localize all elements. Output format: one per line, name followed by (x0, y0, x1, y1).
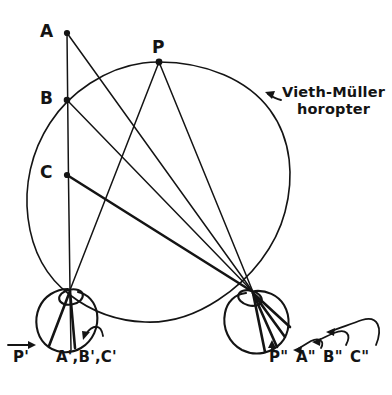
point-label-P: P (152, 38, 165, 58)
ray-A-to-right-eye (67, 33, 253, 292)
object-point-dots (64, 30, 163, 178)
pointer-P-prime-head (28, 341, 36, 349)
vertical-median-line-group (67, 33, 70, 290)
retinal-label-P-double-prime: P" (269, 349, 288, 366)
horopter-annotation-line2: horopter (282, 101, 385, 118)
ray-P-to-left-eye (70, 62, 159, 290)
ray-P-to-right-eye (159, 62, 253, 292)
dot-C (64, 172, 70, 178)
retinal-label-C-double-prime: C" (350, 349, 369, 366)
pointer-ABC-prime-head (82, 331, 90, 340)
right-eye-group (224, 288, 290, 354)
point-label-A: A (40, 22, 53, 42)
retinal-label-B-double-prime: B" (323, 349, 343, 366)
rays-from-P (70, 62, 253, 292)
horopter-annotation: Vieth-Müller horopter (282, 84, 385, 117)
retinal-label-A-double-prime: A" (296, 349, 316, 366)
retinal-label-ABC-prime: A',B',C' (56, 349, 117, 366)
retinal-label-P-prime: P' (13, 349, 29, 366)
dot-B (64, 97, 71, 104)
ray-B-to-right-eye (67, 100, 253, 292)
diagram-canvas (0, 0, 392, 395)
rays-to-right-eye (67, 33, 253, 292)
ray-C-to-right-eye (67, 175, 253, 292)
left-eye-optic-axis (70, 290, 71, 350)
dot-A (64, 30, 70, 36)
horopter-annotation-line1: Vieth-Müller (282, 84, 385, 100)
point-label-C: C (40, 163, 53, 183)
dot-P (156, 59, 163, 66)
left-eye-group (36, 287, 97, 352)
horopter-callout-group (265, 91, 281, 100)
point-label-B: B (40, 89, 53, 109)
line-A-to-left-eye (67, 33, 70, 290)
horopter-figure: A B C P Vieth-Müller horopter P' A',B',C… (0, 0, 392, 395)
